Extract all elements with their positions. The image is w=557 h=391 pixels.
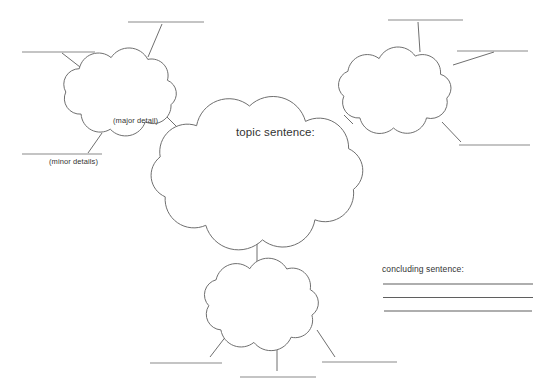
bottom-detail-cloud xyxy=(204,258,318,350)
connector-bottom-cloud-to-right-line xyxy=(317,330,335,357)
connector-right-cloud-to-lower-line xyxy=(442,122,461,142)
right-detail-cloud xyxy=(338,47,450,133)
topic-sentence-label: topic sentence: xyxy=(236,126,315,138)
minor-details-label: (minor details) xyxy=(49,157,98,166)
connector-right-cloud-to-top-line xyxy=(418,22,420,52)
diagram-canvas xyxy=(0,0,557,391)
connector-left-cloud-to-left-line xyxy=(62,53,80,67)
connector-left-cloud-to-minor-line xyxy=(88,133,102,153)
clouds xyxy=(64,47,451,351)
major-detail-label: (major detail) xyxy=(113,116,158,125)
connector-left-cloud-to-top-line xyxy=(148,24,162,57)
topic-sentence-cloud xyxy=(151,96,363,249)
connector-right-cloud-to-upper-line xyxy=(453,52,494,65)
cluster-map-worksheet: topic sentence: (major detail) (minor de… xyxy=(0,0,557,391)
concluding-sentence-label: concluding sentence: xyxy=(382,264,464,274)
